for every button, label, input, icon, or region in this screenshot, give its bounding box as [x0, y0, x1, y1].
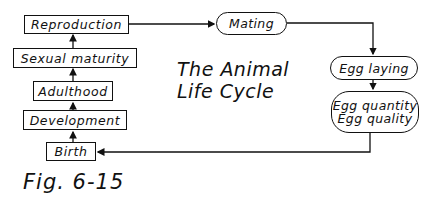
node-egg-laying: Egg laying	[330, 56, 418, 80]
node-label-quality: Egg quality	[338, 112, 413, 125]
figure-caption: Fig. 6-15	[23, 170, 124, 194]
node-birth: Birth	[46, 142, 96, 161]
node-label: Development	[30, 113, 121, 128]
node-label: Birth	[54, 144, 87, 159]
node-mating: Mating	[216, 12, 287, 35]
node-label: Mating	[229, 17, 274, 30]
node-label: Egg laying	[339, 62, 409, 75]
node-egg-quantity-quality: Egg quantity Egg quality	[331, 91, 419, 133]
node-label: Reproduction	[31, 17, 122, 32]
node-label: Sexual maturity	[21, 51, 130, 66]
diagram-title: The Animal Life Cycle	[177, 58, 289, 102]
node-development: Development	[23, 110, 127, 130]
title-line-2: Life Cycle	[177, 80, 289, 102]
node-adulthood: Adulthood	[33, 81, 113, 101]
node-sexual-maturity: Sexual maturity	[13, 48, 137, 68]
title-line-1: The Animal	[177, 58, 289, 80]
node-reproduction: Reproduction	[24, 15, 129, 34]
node-label: Adulthood	[38, 84, 107, 99]
